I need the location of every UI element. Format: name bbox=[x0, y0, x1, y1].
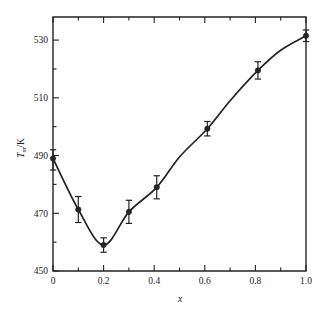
data-point-marker bbox=[50, 156, 55, 161]
y-axis-label: Tm/K bbox=[16, 138, 27, 158]
data-curve bbox=[53, 36, 306, 245]
y-axis-unit: /K bbox=[16, 138, 26, 148]
figure-canvas: 00.20.40.60.81.0 450470490510530 x Tm/K bbox=[0, 0, 325, 313]
data-markers bbox=[50, 33, 308, 248]
plot-svg: 00.20.40.60.81.0 450470490510530 x Tm/K bbox=[0, 0, 325, 313]
data-point-marker bbox=[101, 242, 106, 247]
x-tick-label: 0.2 bbox=[98, 276, 110, 286]
y-tick-label: 530 bbox=[34, 35, 49, 45]
x-axis-label: x bbox=[177, 294, 183, 304]
y-axis-ticks bbox=[53, 40, 59, 271]
data-point-marker bbox=[154, 185, 159, 190]
y-tick-label: 470 bbox=[34, 209, 49, 219]
x-tick-label: 0 bbox=[51, 276, 56, 286]
y-tick-label: 450 bbox=[34, 266, 49, 276]
data-point-marker bbox=[303, 33, 308, 38]
x-tick-label: 0.6 bbox=[199, 276, 211, 286]
data-point-marker bbox=[126, 209, 131, 214]
error-bars bbox=[50, 30, 309, 252]
x-axis-tick-labels: 00.20.40.60.81.0 bbox=[51, 276, 313, 286]
data-point-marker bbox=[205, 126, 210, 131]
y-axis-tick-labels: 450470490510530 bbox=[34, 35, 49, 276]
x-tick-label: 0.4 bbox=[148, 276, 160, 286]
x-tick-label: 1.0 bbox=[300, 276, 312, 286]
curve-path bbox=[53, 36, 306, 245]
data-point-marker bbox=[255, 68, 260, 73]
svg-text:Tm/K: Tm/K bbox=[16, 138, 27, 158]
y-tick-label: 510 bbox=[34, 93, 49, 103]
data-point-marker bbox=[76, 207, 81, 212]
y-tick-label: 490 bbox=[34, 151, 49, 161]
x-tick-label: 0.8 bbox=[249, 276, 261, 286]
